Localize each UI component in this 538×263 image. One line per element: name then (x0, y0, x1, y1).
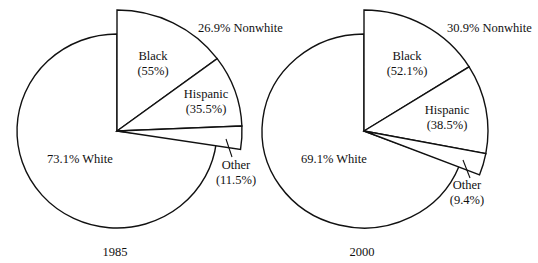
year-label-1985: 1985 (103, 245, 128, 259)
hispanic-label-2000: Hispanic (425, 103, 470, 117)
other-pct-1985: (11.5%) (216, 173, 256, 187)
pie-1985: 26.9% Nonwhite Black (55%) Hispanic (35.… (17, 10, 283, 259)
white-label-1985: 73.1% White (47, 152, 113, 166)
other-label-1985: Other (222, 158, 251, 172)
nonwhite-label-2000: 30.9% Nonwhite (447, 21, 532, 35)
hispanic-label-1985: Hispanic (184, 87, 229, 101)
black-label-2000: Black (392, 49, 422, 63)
black-pct-2000: (52.1%) (387, 64, 428, 78)
hispanic-pct-1985: (35.5%) (186, 102, 227, 116)
hispanic-pct-2000: (38.5%) (427, 118, 468, 132)
other-label-2000: Other (453, 178, 482, 192)
black-label-1985: Black (138, 49, 168, 63)
white-label-2000: 69.1% White (301, 152, 367, 166)
pie-charts-svg: 26.9% Nonwhite Black (55%) Hispanic (35.… (0, 0, 538, 263)
pie-charts-figure: 26.9% Nonwhite Black (55%) Hispanic (35.… (0, 0, 538, 263)
other-pct-2000: (9.4%) (450, 193, 484, 207)
nonwhite-label-1985: 26.9% Nonwhite (198, 21, 283, 35)
pie-2000: 30.9% Nonwhite Black (52.1%) Hispanic (3… (262, 10, 532, 259)
black-pct-1985: (55%) (137, 64, 168, 78)
year-label-2000: 2000 (350, 245, 375, 259)
